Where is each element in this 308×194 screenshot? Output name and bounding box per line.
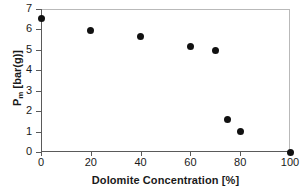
- y-tick-6: [36, 29, 41, 30]
- scatter-chart-figure: 01234567 020406080100 Dolomite Concentra…: [0, 0, 308, 194]
- x-tick-label-0: 0: [21, 156, 61, 168]
- plot-area-frame: [41, 9, 290, 152]
- y-tick-3: [36, 91, 41, 92]
- x-tick-label-60: 60: [170, 156, 210, 168]
- y-tick-2: [36, 111, 41, 112]
- x-tick-label-40: 40: [121, 156, 161, 168]
- y-axis-title-subscript: m: [16, 92, 25, 99]
- y-axis-line: [41, 9, 42, 152]
- x-tick-label-100: 100: [270, 156, 308, 168]
- y-axis-title-unit: [bar(g)]: [11, 50, 23, 92]
- x-axis-line: [41, 151, 290, 152]
- y-tick-7: [36, 9, 41, 10]
- y-axis-title-symbol: P: [11, 99, 23, 106]
- y-tick-4: [36, 70, 41, 71]
- data-point: [287, 149, 294, 156]
- y-tick-1: [36, 132, 41, 133]
- x-axis-title: Dolomite Concentration [%]: [41, 174, 290, 186]
- data-point: [38, 15, 45, 22]
- x-tick-label-20: 20: [71, 156, 111, 168]
- y-tick-5: [36, 50, 41, 51]
- y-axis-title: Pm [bar(g)]: [11, 7, 23, 150]
- x-tick-label-80: 80: [220, 156, 260, 168]
